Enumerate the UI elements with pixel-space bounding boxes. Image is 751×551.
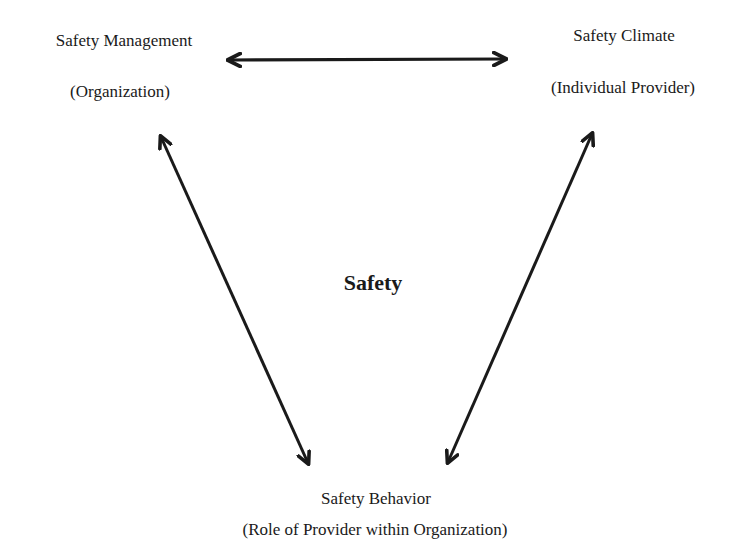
node-climate-subtitle: (Individual Provider) [551, 78, 695, 98]
node-behavior-title: Safety Behavior [321, 489, 431, 509]
center-label: Safety [344, 270, 403, 296]
node-behavior-subtitle: (Role of Provider within Organization) [242, 520, 507, 540]
node-management-title: Safety Management [56, 31, 192, 51]
arrow-management-climate [229, 59, 505, 60]
node-climate-title: Safety Climate [573, 26, 675, 46]
arrow-climate-behavior [448, 134, 592, 462]
arrow-management-behavior [161, 137, 308, 463]
node-management-subtitle: (Organization) [70, 82, 170, 102]
safety-diagram: Safety Management (Organization) Safety … [0, 0, 751, 551]
